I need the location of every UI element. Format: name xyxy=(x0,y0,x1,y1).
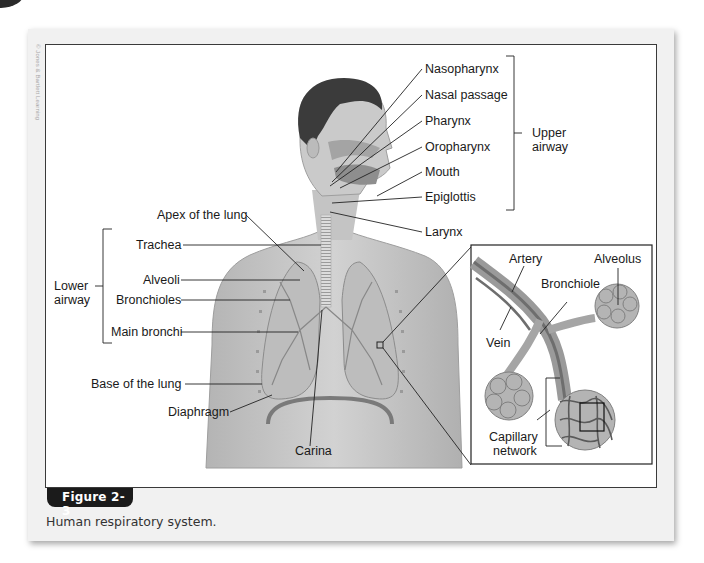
group-lower-airway-line1: Lower xyxy=(54,279,88,293)
label-epiglottis: Epiglottis xyxy=(425,190,476,204)
torso-figure xyxy=(206,78,462,468)
label-oropharynx: Oropharynx xyxy=(425,140,490,154)
label-trachea: Trachea xyxy=(136,238,181,252)
label-vein: Vein xyxy=(486,336,510,350)
label-apex-of-lung: Apex of the lung xyxy=(157,208,247,222)
label-main-bronchi: Main bronchi xyxy=(111,325,183,339)
figure-number-tab: Figure 2-3 xyxy=(47,488,133,507)
group-lower-airway-line2: airway xyxy=(54,293,90,307)
label-nasopharynx: Nasopharynx xyxy=(425,62,499,76)
label-base-of-lung: Base of the lung xyxy=(91,377,181,391)
label-carina: Carina xyxy=(295,444,332,458)
label-bronchiole: Bronchiole xyxy=(541,277,600,291)
label-diaphragm: Diaphragm xyxy=(168,405,229,419)
label-bronchioles: Bronchioles xyxy=(116,293,181,307)
label-artery: Artery xyxy=(509,252,542,266)
figure-caption: Human respiratory system. xyxy=(46,514,217,529)
label-pharynx: Pharynx xyxy=(425,114,471,128)
label-capillary-line2: network xyxy=(493,444,537,458)
label-alveolus: Alveolus xyxy=(594,252,641,266)
label-nasal-passage: Nasal passage xyxy=(425,88,508,102)
label-alveoli: Alveoli xyxy=(143,273,180,287)
group-upper-airway-line1: Upper xyxy=(532,126,566,140)
label-capillary-line1: Capillary xyxy=(489,430,538,444)
group-upper-airway-line2: airway xyxy=(532,140,568,154)
label-larynx: Larynx xyxy=(425,225,463,239)
label-mouth: Mouth xyxy=(425,165,460,179)
